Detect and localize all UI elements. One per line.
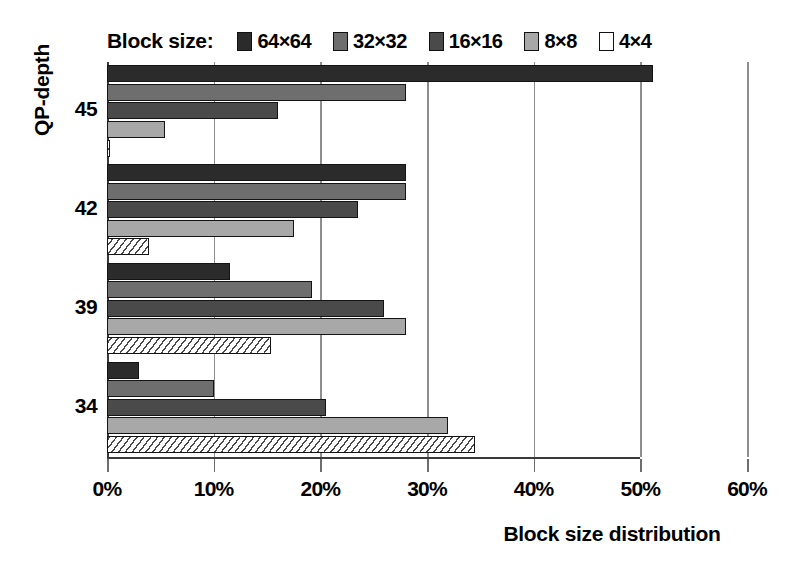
legend-label: 32×32 bbox=[353, 30, 407, 53]
legend-item-64x64[interactable]: 64×64 bbox=[237, 30, 311, 53]
legend-swatch-icon bbox=[524, 32, 539, 51]
x-tick-label: 40% bbox=[514, 477, 554, 501]
bar-qp42-32x32[interactable] bbox=[107, 183, 406, 200]
x-tick-label: 20% bbox=[301, 477, 341, 501]
bar-group-qp-45 bbox=[107, 62, 747, 161]
bar-qp39-64x64[interactable] bbox=[107, 263, 230, 280]
bar-qp42-4x4[interactable] bbox=[107, 238, 149, 255]
bar-group-qp-39 bbox=[107, 260, 747, 359]
bar-qp34-16x16[interactable] bbox=[107, 399, 326, 416]
legend-item-16x16[interactable]: 16×16 bbox=[429, 30, 503, 53]
legend-label: 4×4 bbox=[619, 30, 651, 53]
x-axis-title: Block size distribution bbox=[447, 522, 777, 546]
x-tick-mark bbox=[320, 459, 322, 472]
bar-qp34-8x8[interactable] bbox=[107, 417, 448, 434]
plot-area bbox=[107, 62, 747, 457]
block-size-distribution-chart: Block size: 64×6432×3216×168×84×4 QP-dep… bbox=[0, 0, 797, 576]
x-tick-mark bbox=[214, 459, 216, 472]
legend-swatch-icon bbox=[237, 32, 252, 51]
legend-swatch-icon bbox=[333, 32, 348, 51]
x-tick-mark bbox=[107, 459, 109, 472]
legend-label: 8×8 bbox=[544, 30, 576, 53]
bar-qp45-16x16[interactable] bbox=[107, 102, 278, 119]
bar-qp45-32x32[interactable] bbox=[107, 84, 406, 101]
legend-label: 16×16 bbox=[449, 30, 503, 53]
x-tick-mark bbox=[747, 459, 749, 472]
gridline-60% bbox=[747, 62, 749, 457]
x-axis-tick-labels: 0%10%20%30%40%50%60% bbox=[107, 459, 787, 509]
x-tick-mark bbox=[534, 459, 536, 472]
x-tick-label: 50% bbox=[621, 477, 661, 501]
y-tick-label-qp-42: 42 bbox=[75, 196, 97, 220]
legend-title: Block size: bbox=[107, 29, 213, 53]
legend-item-32x32[interactable]: 32×32 bbox=[333, 30, 407, 53]
x-tick-label: 10% bbox=[194, 477, 234, 501]
bar-qp42-64x64[interactable] bbox=[107, 164, 406, 181]
bar-group-qp-42 bbox=[107, 161, 747, 260]
bar-qp45-64x64[interactable] bbox=[107, 65, 653, 82]
bar-qp39-16x16[interactable] bbox=[107, 300, 384, 317]
bar-qp34-4x4[interactable] bbox=[107, 436, 475, 453]
x-tick-label: 0% bbox=[93, 477, 122, 501]
x-tick-mark bbox=[640, 459, 642, 472]
legend-item-8x8[interactable]: 8×8 bbox=[524, 30, 576, 53]
legend-swatch-icon bbox=[599, 32, 614, 51]
bar-qp45-4x4[interactable] bbox=[107, 140, 110, 157]
bar-qp39-8x8[interactable] bbox=[107, 318, 406, 335]
bar-qp42-16x16[interactable] bbox=[107, 201, 358, 218]
bar-group-qp-34 bbox=[107, 358, 747, 457]
bar-qp34-32x32[interactable] bbox=[107, 380, 214, 397]
legend-label: 64×64 bbox=[257, 30, 311, 53]
bar-qp34-64x64[interactable] bbox=[107, 362, 139, 379]
y-axis-tick-labels: 45423934 bbox=[0, 62, 97, 457]
x-tick-mark bbox=[427, 459, 429, 472]
y-tick-label-qp-39: 39 bbox=[75, 295, 97, 319]
bar-qp42-8x8[interactable] bbox=[107, 220, 294, 237]
y-tick-label-qp-45: 45 bbox=[75, 97, 97, 121]
x-tick-label: 30% bbox=[407, 477, 447, 501]
y-tick-label-qp-34: 34 bbox=[75, 394, 97, 418]
chart-legend: Block size: 64×6432×3216×168×84×4 bbox=[107, 24, 767, 58]
legend-items: 64×6432×3216×168×84×4 bbox=[237, 30, 673, 53]
legend-swatch-icon bbox=[429, 32, 444, 51]
x-tick-label: 60% bbox=[727, 477, 767, 501]
bar-qp45-8x8[interactable] bbox=[107, 121, 165, 138]
legend-item-4x4[interactable]: 4×4 bbox=[599, 30, 651, 53]
bar-qp39-4x4[interactable] bbox=[107, 337, 271, 354]
bar-qp39-32x32[interactable] bbox=[107, 281, 312, 298]
